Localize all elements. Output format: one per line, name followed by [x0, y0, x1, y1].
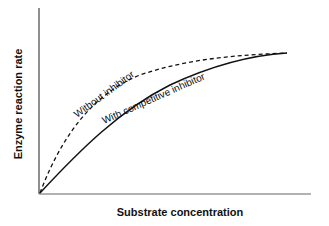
enzyme-kinetics-chart: Without inhibitor With competitive inhib… — [0, 0, 329, 226]
y-axis-label: Enzyme reaction rate — [12, 49, 24, 160]
x-axis-label: Substrate concentration — [117, 206, 244, 218]
curve-without-inhibitor — [40, 53, 287, 193]
